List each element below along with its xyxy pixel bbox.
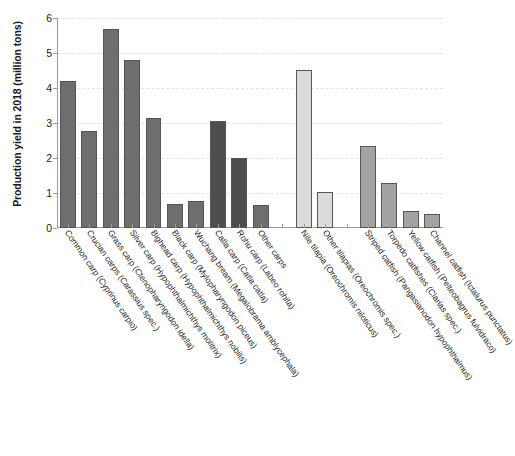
bar xyxy=(60,81,76,228)
bar xyxy=(124,60,140,228)
x-tick-mark xyxy=(196,224,197,228)
x-tick-mark xyxy=(432,224,433,228)
x-tick-mark xyxy=(218,224,219,228)
bar xyxy=(210,121,226,228)
plot-area: 0123456 xyxy=(57,18,443,228)
x-tick-mark xyxy=(261,224,262,228)
x-tick-label: Yellow catfish (Pelteobagrus fulvidraco) xyxy=(406,228,499,355)
y-tick-label: 5 xyxy=(46,47,52,59)
bar xyxy=(146,118,162,228)
x-tick-mark xyxy=(111,224,112,228)
x-tick-mark xyxy=(389,224,390,228)
bar xyxy=(103,29,119,229)
x-tick-mark xyxy=(347,224,348,228)
y-axis-title: Production yield in 2018 (million tons) xyxy=(11,9,23,219)
x-tick-mark xyxy=(282,224,283,228)
y-tick-label: 4 xyxy=(46,82,52,94)
bar xyxy=(231,158,247,228)
x-tick-mark xyxy=(304,224,305,228)
bar xyxy=(381,183,397,228)
bar xyxy=(296,70,312,228)
bar xyxy=(317,192,333,228)
x-tick-mark xyxy=(175,224,176,228)
x-tick-mark xyxy=(411,224,412,228)
bar xyxy=(81,131,97,228)
x-tick-mark xyxy=(368,224,369,228)
x-tick-mark xyxy=(68,224,69,228)
y-tick-label: 6 xyxy=(46,12,52,24)
x-tick-mark xyxy=(239,224,240,228)
x-tick-mark xyxy=(132,224,133,228)
x-tick-mark xyxy=(89,224,90,228)
bar xyxy=(360,146,376,228)
y-tick-label: 1 xyxy=(46,187,52,199)
y-tick-label: 3 xyxy=(46,117,52,129)
y-tick-label: 0 xyxy=(46,222,52,234)
x-axis-labels: Common carp (Cyprinus carpio)Crucian car… xyxy=(57,228,443,456)
bar-series xyxy=(57,18,443,228)
y-tick-label: 2 xyxy=(46,152,52,164)
x-tick-mark xyxy=(154,224,155,228)
x-tick-mark xyxy=(325,224,326,228)
